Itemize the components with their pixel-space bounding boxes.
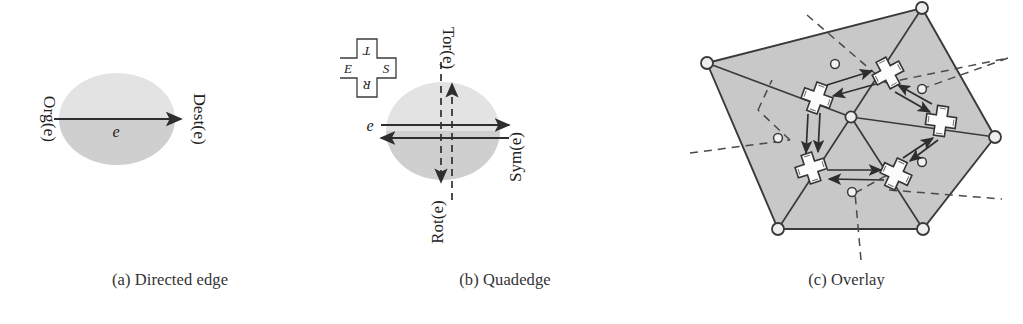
caption-a: (a) Directed edge (0, 270, 340, 290)
rot-label: Rot(e) (428, 200, 447, 243)
caption-c: (c) Overlay (670, 270, 1023, 290)
quadedge-figure: Org(e) Dest(e) e (a) Directed edge (0, 0, 1023, 324)
quadedge-cross-legend: T E S R (340, 39, 396, 97)
edge-label-b: e (366, 117, 373, 134)
sym-label: Sym(e) (506, 132, 525, 182)
tor-label: Tor(e) (439, 27, 458, 69)
org-label: Org(e) (40, 96, 60, 142)
panel-a-graphic: Org(e) Dest(e) e (0, 0, 340, 270)
panel-b-graphic: e Tor(e) Rot(e) Sym(e) T E S R (340, 0, 670, 270)
panel-overlay: (c) Overlay (670, 0, 1023, 324)
cross-legend-right-label: S (383, 61, 390, 76)
panel-directed-edge: Org(e) Dest(e) e (a) Directed edge (0, 0, 340, 324)
quadedge-ellipse (386, 82, 500, 180)
panel-c-graphic (670, 0, 1023, 270)
dest-label: Dest(e) (190, 93, 210, 145)
cross-legend-left-label: E (343, 61, 352, 76)
edge-label-a: e (112, 123, 119, 140)
cross-legend-bottom-label: R (363, 78, 372, 93)
cross-legend-top-label: T (363, 44, 371, 59)
caption-b: (b) Quadedge (340, 270, 670, 290)
panel-quadedge: e Tor(e) Rot(e) Sym(e) T E S R (b) Quade… (340, 0, 670, 324)
